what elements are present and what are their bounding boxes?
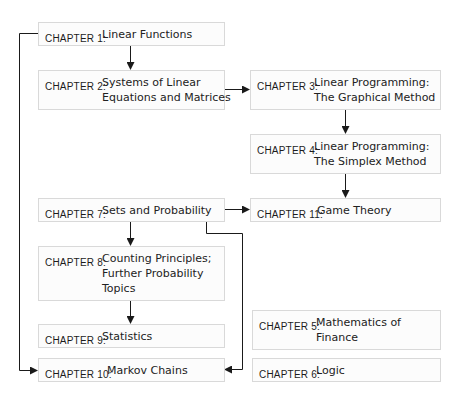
chapter-title: Game Theory: [317, 203, 391, 218]
chapter-title-line: Counting Principles;: [102, 251, 212, 266]
chapter-label: CHAPTER 2:: [45, 81, 106, 92]
chapter-3-box: CHAPTER 3: Linear Programming: The Graph…: [250, 70, 441, 110]
chapter-9-box: CHAPTER 9: Statistics: [38, 324, 225, 348]
chapter-title-line: Further Probability: [102, 266, 212, 281]
chapter-5-box: CHAPTER 5: Mathematics of Finance: [252, 310, 441, 350]
chapter-8-box: CHAPTER 8: Counting Principles; Further …: [38, 246, 225, 301]
chapter-title-line: Equations and Matrices: [102, 90, 231, 105]
chapter-7-box: CHAPTER 7: Sets and Probability: [38, 198, 225, 222]
chapter-title: Sets and Probability: [102, 203, 212, 218]
chapter-title: Statistics: [102, 329, 152, 344]
chapter-2-box: CHAPTER 2: Systems of Linear Equations a…: [38, 70, 225, 110]
chapter-title-line: Linear Programming:: [314, 75, 435, 90]
chapter-label: CHAPTER 9:: [45, 335, 106, 346]
chapter-title-line: Finance: [316, 330, 401, 345]
chapter-title: Markov Chains: [107, 363, 188, 378]
chapter-title-line: The Graphical Method: [314, 90, 435, 105]
chapter-label: CHAPTER 11:: [257, 209, 323, 220]
chapter-1-box: CHAPTER 1: Linear Functions: [38, 22, 225, 46]
chapter-label: CHAPTER 8:: [45, 257, 106, 268]
chapter-title-line: The Simplex Method: [314, 154, 430, 169]
chapter-title-line: Linear Programming:: [314, 139, 430, 154]
chapter-label: CHAPTER 6:: [259, 369, 320, 380]
chapter-label: CHAPTER 5:: [259, 321, 320, 332]
chapter-title-line: Systems of Linear: [102, 75, 231, 90]
chapter-title-line: Mathematics of: [316, 315, 401, 330]
chapter-title-line: Topics: [102, 281, 212, 296]
chapter-11-box: CHAPTER 11: Game Theory: [250, 198, 441, 222]
chapter-label: CHAPTER 4:: [257, 145, 318, 156]
chapter-6-box: CHAPTER 6: Logic: [252, 358, 441, 382]
chapter-title: Linear Functions: [102, 27, 192, 42]
chapter-label: CHAPTER 10:: [45, 369, 112, 380]
chapter-title: Logic: [316, 363, 345, 378]
edge-ch1-ch10: [20, 34, 39, 371]
chapter-label: CHAPTER 3:: [257, 81, 318, 92]
chapter-label: CHAPTER 7:: [45, 209, 106, 220]
chapter-4-box: CHAPTER 4: Linear Programming: The Simpl…: [250, 134, 441, 174]
chapter-10-box: CHAPTER 10: Markov Chains: [38, 358, 225, 382]
chapter-label: CHAPTER 1:: [45, 33, 106, 44]
